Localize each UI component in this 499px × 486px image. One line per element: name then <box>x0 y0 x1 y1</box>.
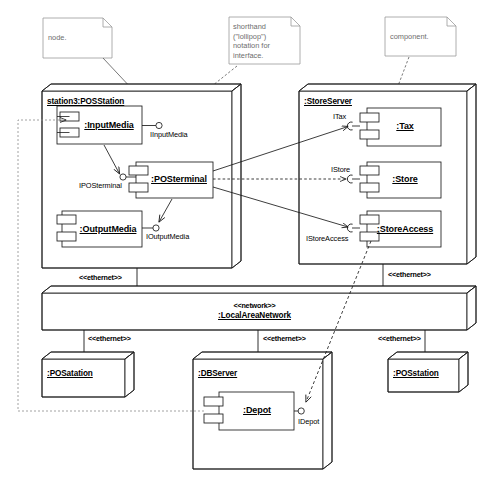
link-lan-posstation-label: <<ethernet>> <box>378 335 440 343</box>
iface-itax-label: ITax <box>333 113 346 121</box>
note-node-leader <box>103 58 133 90</box>
node-lan-label: :LocalAreaNetwork <box>42 311 467 320</box>
note-lollipop-leader <box>162 66 237 126</box>
comp-storeaccess-label: :StoreAccess <box>373 224 437 234</box>
note-node-anchor <box>132 89 136 93</box>
comp-inputmedia-label: :InputMedia <box>79 120 139 130</box>
node-lan-stereotype: <<network>> <box>42 302 467 310</box>
iface-iinputmedia-shape <box>142 122 162 128</box>
dep-posterminal-ioutputmedia <box>159 199 172 222</box>
node-dbserver-label: :DBServer <box>198 369 237 378</box>
conn-posterminal-itax <box>213 127 348 172</box>
note-component-leader <box>390 57 409 107</box>
note-lollipop-text: shorthand ("lollipop") notation for inte… <box>233 22 297 60</box>
iface-iinputmedia-label: IInputMedia <box>150 131 188 139</box>
comp-store-label: :Store <box>379 174 431 184</box>
link-storeserver-lan-label: <<ethernet>> <box>388 271 450 279</box>
link-lan-dbserver-label: <<ethernet>> <box>263 335 325 343</box>
dep-inputmedia-iposterminal <box>104 145 120 174</box>
node-storeserver-label: :StoreServer <box>304 97 352 106</box>
comp-outputmedia-label: :OutputMedia <box>76 224 140 234</box>
iface-ioutputmedia-label: IOutputMedia <box>146 233 189 241</box>
node-posstation-label: :POSstation <box>393 369 439 378</box>
iface-istoreaccess-shape <box>347 224 360 232</box>
iface-iposterminal-label: IPOSterminal <box>79 182 122 190</box>
note-component-anchor <box>387 107 391 111</box>
iface-istore-label: IStore <box>331 166 350 174</box>
comp-posterminal-label: :POSterminal <box>148 174 210 184</box>
iface-istore-shape <box>347 175 360 183</box>
link-posstation3-lan-label: <<ethernet>> <box>79 274 139 282</box>
iface-idepot-shape <box>294 408 304 414</box>
uml-deployment-diagram: IPOSterminal --> IOutputMedia --> <box>0 0 499 486</box>
node-posstation3-shape <box>42 84 241 268</box>
comp-depot-label: :Depot <box>232 405 282 415</box>
link-lan-posatation-label: <<ethernet>> <box>88 335 150 343</box>
iface-istoreaccess-label: IStoreAccess <box>306 235 348 243</box>
dep-depot-inputmedia <box>18 120 204 411</box>
comp-tax-label: :Tax <box>381 121 429 131</box>
node-posstation3-label: station3:POSStation <box>47 97 124 106</box>
dep-storeaccess-idepot <box>306 241 371 402</box>
note-node-text: node. <box>48 33 108 43</box>
node-posatation-label: :POSatation <box>47 369 93 378</box>
note-component-text: component. <box>390 32 454 42</box>
iface-itax-shape <box>347 122 360 130</box>
iface-iposterminal-shape <box>120 174 136 180</box>
conn-posterminal-istoreaccess <box>213 187 348 227</box>
iface-ioutputmedia-shape <box>142 225 159 231</box>
iface-idepot-label: IDepot <box>298 418 319 426</box>
